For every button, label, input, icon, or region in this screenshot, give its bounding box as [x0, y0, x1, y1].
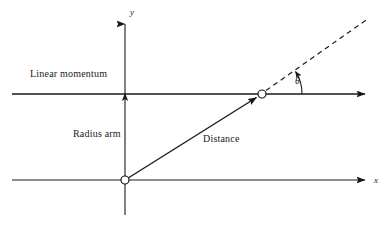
diagram-canvas — [0, 0, 386, 226]
physics-vector-diagram: Linear momentum Radius arm Distance y x … — [0, 0, 386, 226]
intersection-marker — [258, 90, 266, 98]
x-axis-label: x — [374, 176, 378, 185]
dashed-extension-line — [266, 18, 369, 91]
y-axis-label: y — [130, 8, 134, 17]
origin-marker — [121, 176, 129, 184]
linear-momentum-label: Linear momentum — [30, 69, 107, 79]
theta-angle-label: θ — [295, 76, 300, 86]
distance-label: Distance — [203, 134, 240, 144]
radius-arm-label: Radius arm — [73, 129, 121, 139]
